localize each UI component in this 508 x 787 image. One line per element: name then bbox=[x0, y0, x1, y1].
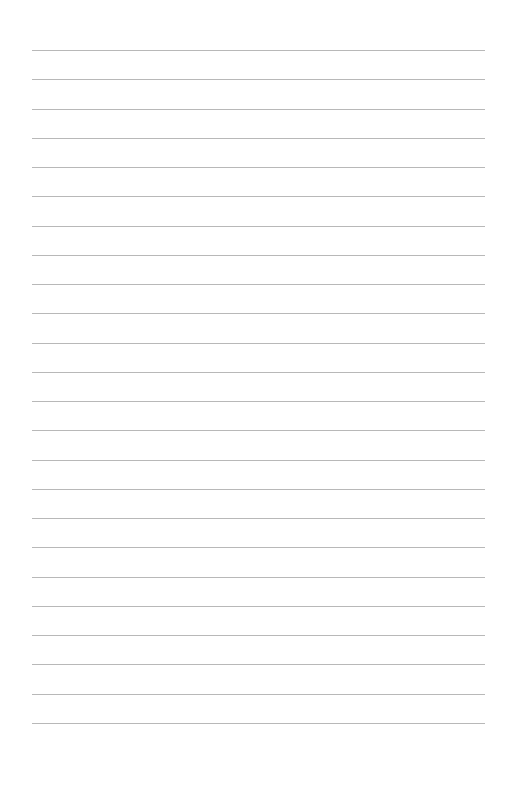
ruled-line bbox=[32, 79, 485, 80]
ruled-line bbox=[32, 167, 485, 168]
ruled-line bbox=[32, 489, 485, 490]
ruled-line bbox=[32, 401, 485, 402]
ruled-line bbox=[32, 430, 485, 431]
ruled-line bbox=[32, 313, 485, 314]
ruled-line bbox=[32, 577, 485, 578]
ruled-line bbox=[32, 109, 485, 110]
ruled-line bbox=[32, 606, 485, 607]
ruled-line bbox=[32, 196, 485, 197]
ruled-line bbox=[32, 138, 485, 139]
ruled-line bbox=[32, 635, 485, 636]
ruled-line bbox=[32, 723, 485, 724]
ruled-line bbox=[32, 255, 485, 256]
ruled-line bbox=[32, 50, 485, 51]
ruled-line bbox=[32, 372, 485, 373]
ruled-line bbox=[32, 694, 485, 695]
lined-paper-page bbox=[0, 0, 508, 787]
ruled-line bbox=[32, 547, 485, 548]
ruled-line bbox=[32, 284, 485, 285]
ruled-line bbox=[32, 226, 485, 227]
ruled-line bbox=[32, 343, 485, 344]
ruled-line bbox=[32, 518, 485, 519]
ruled-line bbox=[32, 664, 485, 665]
ruled-line bbox=[32, 460, 485, 461]
